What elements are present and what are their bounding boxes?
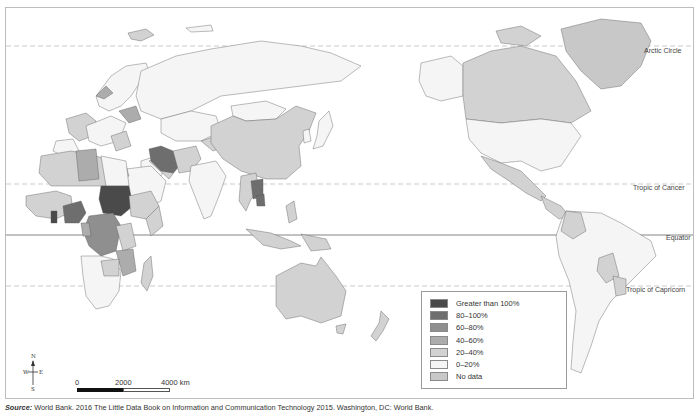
tropic-of-capricorn-label: Tropic of Capricorn (626, 286, 685, 293)
tropic-of-cancer-label: Tropic of Cancer (633, 184, 684, 191)
legend-item-40-60: 40–60% (430, 334, 558, 346)
world-map (6, 8, 694, 399)
legend-swatch (430, 299, 448, 308)
legend-swatch (430, 311, 448, 320)
legend-item-0-20: 0–20% (430, 358, 558, 370)
scale-tick-2000: 2000 (115, 378, 132, 387)
compass-rose-icon: N W E S (23, 353, 43, 395)
arctic-circle-label: Arctic Circle (644, 47, 681, 54)
legend-item-no-data: No data (430, 371, 558, 383)
scale-bar-white (123, 388, 170, 392)
equator-label: Equator (666, 234, 691, 241)
compass-arrow-icon (23, 353, 43, 395)
legend: Greater than 100% 80–100% 60–80% 40–60% … (421, 291, 567, 389)
legend-label: No data (456, 372, 482, 381)
legend-item-greater-100: Greater than 100% (430, 297, 558, 309)
source-citation: Source: World Bank. 2016 The Little Data… (5, 403, 433, 412)
legend-item-60-80: 60–80% (430, 322, 558, 334)
legend-item-80-100: 80–100% (430, 309, 558, 321)
legend-item-20-40: 20–40% (430, 346, 558, 358)
legend-swatch (430, 336, 448, 345)
source-text: World Bank. 2016 The Little Data Book on… (32, 403, 433, 412)
legend-swatch (430, 372, 448, 381)
scale-bar: 0 2000 4000 km (73, 378, 223, 394)
legend-swatch (430, 348, 448, 357)
legend-label: 80–100% (456, 311, 488, 320)
map-frame: Arctic Circle Tropic of Cancer Equator T… (5, 7, 694, 399)
scale-tick-0: 0 (75, 378, 79, 387)
legend-swatch (430, 360, 448, 369)
legend-label: 60–80% (456, 323, 484, 332)
legend-swatch (430, 323, 448, 332)
legend-label: 0–20% (456, 360, 479, 369)
scale-tick-4000: 4000 km (161, 378, 190, 387)
legend-label: Greater than 100% (456, 299, 519, 308)
legend-label: 20–40% (456, 348, 484, 357)
source-label: Source: (5, 403, 32, 412)
legend-label: 40–60% (456, 336, 484, 345)
scale-bar-black (77, 388, 123, 392)
